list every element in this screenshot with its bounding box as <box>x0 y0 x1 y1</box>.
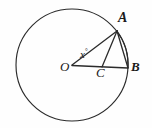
degree-symbol: ° <box>85 47 88 55</box>
vertex-a-dot <box>116 30 118 32</box>
geometry-diagram <box>0 0 152 128</box>
geometry-figure: A B C O x° <box>0 0 152 128</box>
angle-label: x° <box>80 48 88 60</box>
point-label-b: B <box>131 60 140 73</box>
point-label-a: A <box>118 11 127 25</box>
point-label-o: O <box>60 60 69 73</box>
point-label-c: C <box>96 66 105 79</box>
